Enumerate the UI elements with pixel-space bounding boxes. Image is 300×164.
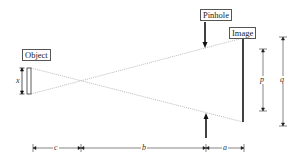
pinhole-bottom-arrow bbox=[204, 113, 209, 138]
p-variable: p bbox=[259, 76, 265, 84]
image-label: Image bbox=[229, 27, 256, 39]
ray-top-to-bottom bbox=[31, 68, 243, 122]
x-variable: x bbox=[15, 77, 21, 85]
ray-bottom-to-top bbox=[31, 38, 243, 94]
horizontal-dimension-line bbox=[33, 144, 244, 152]
pinhole-top-arrow bbox=[203, 22, 208, 48]
object-shape bbox=[27, 68, 31, 94]
pinhole-diagram bbox=[0, 0, 300, 164]
a-variable: a bbox=[222, 144, 228, 152]
b-variable: b bbox=[141, 144, 147, 152]
pinhole-label: Pinhole bbox=[200, 9, 232, 21]
c-variable: c bbox=[53, 144, 59, 152]
object-label: Object bbox=[22, 49, 51, 61]
q-variable: q bbox=[279, 76, 285, 84]
light-rays bbox=[31, 38, 243, 122]
